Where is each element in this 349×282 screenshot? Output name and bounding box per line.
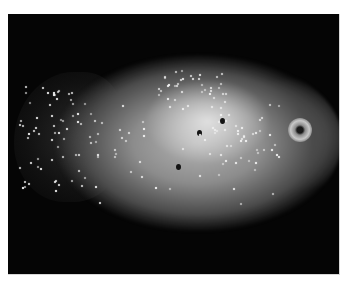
highlight-speck [240,203,242,205]
highlight-speck [168,84,170,86]
highlight-speck [99,202,101,204]
highlight-speck [187,105,189,107]
highlight-speck [95,141,97,143]
highlight-speck [252,133,254,135]
highlight-speck [220,154,222,156]
highlight-speck [139,161,141,163]
highlight-speck [142,121,144,123]
highlight-speck [226,145,228,147]
highlight-speck [37,166,39,168]
highlight-speck [233,188,235,190]
highlight-speck [27,137,29,139]
highlight-speck [19,167,21,169]
highlight-speck [125,140,127,142]
highlight-speck [255,162,257,164]
highlight-speck [19,124,21,126]
highlight-speck [143,128,145,130]
highlight-speck [25,92,27,94]
highlight-speck [248,160,250,162]
highlight-speck [255,132,257,134]
highlight-speck [80,123,82,125]
highlight-speck [38,133,40,135]
highlight-speck [28,183,30,185]
highlight-speck [60,119,62,121]
highlight-speck [29,102,31,104]
highlight-speck [71,180,73,182]
highlight-speck [235,125,237,127]
highlight-speck [24,186,26,188]
highlight-speck [235,162,237,164]
highlight-speck [220,83,222,85]
highlight-speck [237,130,239,132]
highlight-speck [204,139,206,141]
highlight-speck [180,79,182,81]
highlight-speck [97,133,99,135]
highlight-speck [204,89,206,91]
highlight-speck [28,133,30,135]
highlight-speck [20,120,22,122]
highlight-speck [22,125,24,127]
highlight-speck [169,106,171,108]
highlight-speck [176,85,178,87]
highlight-speck [51,159,53,161]
highlight-speck [228,114,230,116]
highlight-speck [57,146,59,148]
specimen-photo [8,14,340,275]
highlight-speck [211,106,213,108]
highlight-speck [37,158,39,160]
highlight-speck [220,107,222,109]
highlight-speck [72,103,74,105]
highlight-speck [263,149,265,151]
highlight-speck [63,138,65,140]
highlight-speck [209,93,211,95]
highlight-speck [243,136,245,138]
highlight-speck [276,154,278,156]
highlight-speck [81,185,83,187]
highlight-speck [222,93,224,95]
highlight-speck [230,145,232,147]
highlight-speck [128,132,130,134]
highlight-speck [58,184,60,186]
highlight-speck [54,181,56,183]
highlight-speck [201,91,203,93]
highlight-speck [241,127,243,129]
highlight-speck [220,114,222,116]
highlight-speck [198,78,200,80]
highlight-speck [155,187,157,189]
dark-focus [176,164,181,170]
highlight-speck [174,85,176,87]
highlight-speck [90,113,92,115]
highlight-speck [72,115,74,117]
highlight-speck [25,86,27,88]
highlight-speck [212,127,214,129]
ring-lesion [288,118,312,142]
highlight-speck [199,134,201,136]
highlight-speck [56,98,58,100]
highlight-speck [89,136,91,138]
highlight-speck [225,160,227,162]
highlight-speck [259,130,261,132]
